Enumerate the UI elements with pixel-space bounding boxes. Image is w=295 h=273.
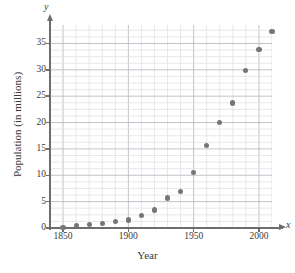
scatter-plot-figure: y x 05101520253035 1850190019502000 Year… bbox=[0, 0, 295, 273]
y-tick-label: 35 bbox=[37, 38, 47, 48]
y-tick-mark bbox=[46, 227, 50, 228]
x-axis-title: Year bbox=[0, 250, 295, 261]
y-tick-mark bbox=[46, 95, 50, 96]
y-tick-label: 30 bbox=[37, 65, 47, 75]
data-point bbox=[126, 217, 131, 222]
x-axis-arrow-icon bbox=[279, 224, 286, 230]
x-tick-label: 2000 bbox=[249, 232, 268, 242]
data-point bbox=[191, 170, 196, 175]
x-tick-label: 1900 bbox=[119, 232, 138, 242]
data-point bbox=[60, 225, 65, 230]
data-point bbox=[152, 207, 157, 212]
y-axis-arrow-icon bbox=[47, 14, 53, 21]
y-tick-mark bbox=[46, 43, 50, 44]
y-tick-label: 15 bbox=[37, 144, 47, 154]
y-tick-mark bbox=[46, 201, 50, 202]
x-tick-mark bbox=[193, 228, 194, 232]
y-tick-mark bbox=[46, 148, 50, 149]
x-tick-label: 1850 bbox=[54, 232, 73, 242]
x-tick-mark bbox=[258, 228, 259, 232]
data-point bbox=[139, 213, 144, 218]
data-point bbox=[269, 29, 274, 34]
y-tick-label: 10 bbox=[37, 170, 47, 180]
y-axis-title: Population (in millions) bbox=[12, 40, 23, 210]
data-point bbox=[100, 221, 105, 226]
y-tick-label: 25 bbox=[37, 91, 47, 101]
y-tick-mark bbox=[46, 69, 50, 70]
x-axis-tick-labels: 1850190019502000 bbox=[0, 232, 295, 246]
x-tick-label: 1950 bbox=[184, 232, 203, 242]
x-tick-mark bbox=[128, 228, 129, 232]
grid-lines bbox=[50, 25, 272, 228]
data-point bbox=[165, 195, 170, 200]
x-axis-variable-label: x bbox=[286, 220, 290, 230]
y-tick-label: 20 bbox=[37, 118, 47, 128]
y-axis-line bbox=[49, 20, 51, 230]
data-point bbox=[256, 47, 261, 52]
plot-area bbox=[50, 25, 272, 228]
x-axis-line bbox=[49, 227, 283, 229]
y-tick-mark bbox=[46, 122, 50, 123]
y-tick-mark bbox=[46, 175, 50, 176]
